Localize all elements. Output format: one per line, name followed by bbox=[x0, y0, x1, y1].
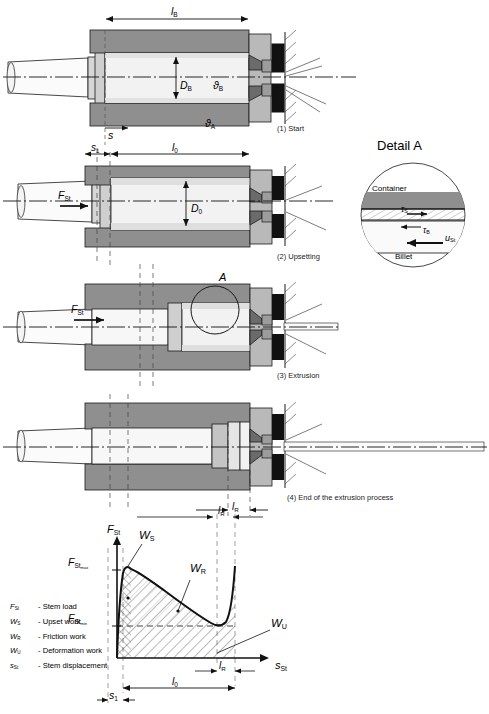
stage4-geometry bbox=[3, 394, 487, 516]
chart-ytick-fstmax: FStmax bbox=[68, 557, 88, 570]
stage2-stroke1-label: s1 bbox=[91, 143, 99, 154]
stage2-length0-label: l0 bbox=[172, 142, 178, 154]
stage1-diameter-label: DB bbox=[180, 80, 192, 92]
stage-2: s1 l0 D0 FSt (2) Upsetting bbox=[0, 140, 340, 270]
chart-x-axis-label: sSt bbox=[275, 660, 287, 673]
legend-text: Stem load bbox=[43, 602, 77, 611]
chart-s1-label: s1 bbox=[109, 690, 118, 702]
legend-dash: - bbox=[38, 646, 41, 655]
stage2-diameter0-label: D0 bbox=[191, 203, 202, 215]
legend-symbol: WU bbox=[10, 646, 21, 655]
list-item: WR - Friction work bbox=[10, 632, 107, 645]
list-item: FSt - Stem load bbox=[10, 602, 107, 615]
chart-lr-bottom-label: lR bbox=[219, 661, 226, 672]
stage2-caption: (2) Upsetting bbox=[277, 253, 320, 261]
detail-a-panel: Detail A Container Billet τS τB uSt bbox=[345, 140, 489, 270]
stage2-force-label: FSt bbox=[58, 190, 71, 202]
list-item: WS - Upset work bbox=[10, 617, 107, 630]
stage1-length-label: lB bbox=[171, 6, 178, 18]
detail-container-label: Container bbox=[372, 185, 407, 193]
detail-shear-billet-label: τB bbox=[423, 226, 430, 236]
list-item: WU - Deformation work bbox=[10, 646, 107, 659]
stem-load-chart: FSt sSt FStmax FStmin WS WR WU lR lR l0 … bbox=[95, 508, 385, 708]
chart-annotation-wr: WR bbox=[190, 563, 206, 576]
legend-symbol: WR bbox=[10, 632, 21, 641]
stage-4: lR (4) End of the extrusion process bbox=[0, 392, 489, 520]
chart-annotation-ws: WS bbox=[139, 530, 155, 543]
stage1-caption: (1) Start bbox=[277, 125, 304, 133]
stage3-force-label: FSt bbox=[71, 304, 84, 316]
legend-symbol: sSt bbox=[10, 661, 18, 670]
legend-text: Deformation work bbox=[43, 646, 103, 655]
legend: FSt - Stem load WS - Upset work WR - Fri… bbox=[8, 600, 109, 676]
chart-annotation-wu: WU bbox=[271, 618, 287, 631]
stage1-container-temp-label: ϑA bbox=[205, 118, 215, 130]
legend-text: Stem displacement bbox=[43, 661, 108, 670]
stage1-billet-temp-label: ϑB bbox=[213, 80, 223, 92]
detail-velocity-label: uSt bbox=[445, 234, 455, 244]
detail-billet-label: Billet bbox=[395, 253, 412, 261]
chart-lr-top-label: lR bbox=[218, 506, 225, 517]
legend-text: Friction work bbox=[43, 632, 86, 641]
stage-3: A FSt (3) Extrusion bbox=[0, 262, 340, 390]
stage3-caption: (3) Extrusion bbox=[277, 372, 320, 380]
chart-l0-label: l0 bbox=[172, 676, 178, 688]
legend-text: Upset work bbox=[43, 617, 81, 626]
list-item: sSt - Stem displacement bbox=[10, 661, 107, 674]
legend-dash: - bbox=[38, 661, 41, 670]
legend-table: FSt - Stem load WS - Upset work WR - Fri… bbox=[8, 600, 109, 676]
legend-dash: - bbox=[38, 632, 41, 641]
stage3-geometry bbox=[3, 264, 338, 388]
chart-y-axis-label: FSt bbox=[107, 524, 120, 537]
stage2-geometry bbox=[3, 148, 336, 265]
detail-a-contents bbox=[355, 192, 475, 253]
legend-dash: - bbox=[38, 602, 41, 611]
stage1-stroke-label: s bbox=[108, 130, 113, 141]
legend-symbol: WS bbox=[10, 617, 20, 626]
legend-dash: - bbox=[38, 617, 41, 626]
stage-1: lB DB ϑB ϑA s (1) Start bbox=[0, 0, 360, 140]
detail-a-title: Detail A bbox=[377, 138, 422, 153]
stage4-caption: (4) End of the extrusion process bbox=[287, 494, 393, 502]
stage3-detail-marker-label: A bbox=[219, 272, 226, 283]
legend-symbol: FSt bbox=[10, 602, 19, 611]
detail-shear-surface-label: τS bbox=[401, 205, 408, 215]
